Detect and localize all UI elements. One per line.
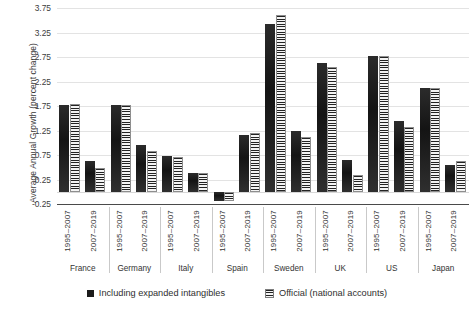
x-axis-period-label: 1995–2007 bbox=[63, 210, 72, 252]
bar bbox=[188, 173, 198, 192]
x-axis-period-label: 2007–2019 bbox=[243, 210, 252, 252]
y-axis-tick-label: 3.75 bbox=[35, 3, 51, 13]
bar bbox=[95, 168, 105, 192]
bar bbox=[214, 192, 224, 201]
y-axis-tick-label: 0.25 bbox=[35, 175, 51, 185]
x-axis-country-label: Spain bbox=[227, 264, 248, 273]
bar bbox=[147, 151, 157, 192]
x-axis-period-label: 1995–2007 bbox=[424, 210, 433, 252]
y-axis-tick-label: 3.25 bbox=[35, 28, 51, 38]
bar bbox=[342, 160, 352, 192]
gridline: 3.25 bbox=[57, 33, 469, 34]
x-axis-line bbox=[57, 204, 469, 205]
x-axis-period-label: 1995–2007 bbox=[166, 210, 175, 252]
bar bbox=[136, 145, 146, 192]
x-axis-country-label: UK bbox=[335, 264, 346, 273]
legend-swatch-icon bbox=[87, 290, 94, 297]
x-axis-period-label: 1995–2007 bbox=[269, 210, 278, 252]
bar bbox=[420, 88, 430, 192]
bar bbox=[353, 175, 363, 192]
legend-label: Official (national accounts) bbox=[279, 288, 387, 298]
bar bbox=[198, 173, 208, 192]
x-axis-period-label: 1995–2007 bbox=[321, 210, 330, 252]
bar bbox=[265, 24, 275, 192]
zero-baseline bbox=[57, 192, 469, 193]
y-axis-tick-label: 2.75 bbox=[35, 52, 51, 62]
bar bbox=[59, 105, 69, 192]
bar bbox=[70, 104, 80, 192]
legend-label: Including expanded intangibles bbox=[99, 288, 225, 298]
bar bbox=[85, 161, 95, 192]
y-axis-tick-label: 1.25 bbox=[35, 126, 51, 136]
bar bbox=[379, 56, 389, 192]
bar bbox=[224, 192, 234, 201]
y-axis-tick-label: -0.25 bbox=[32, 199, 51, 209]
bar bbox=[327, 67, 337, 192]
y-axis-tick-label: 0.75 bbox=[35, 150, 51, 160]
x-axis-period-label: 2007–2019 bbox=[346, 210, 355, 252]
bar bbox=[276, 15, 286, 191]
x-axis-country-label: Italy bbox=[178, 264, 193, 273]
x-axis-period-label: 2007–2019 bbox=[140, 210, 149, 252]
country-separator bbox=[109, 207, 110, 273]
x-axis-period-label: 1995–2007 bbox=[115, 210, 124, 252]
bar bbox=[121, 105, 131, 192]
bar bbox=[430, 88, 440, 192]
country-separator bbox=[160, 207, 161, 273]
country-separator bbox=[315, 207, 316, 273]
bar bbox=[250, 133, 260, 192]
bar bbox=[162, 156, 172, 191]
bar bbox=[445, 165, 455, 192]
x-axis-period-label: 1995–2007 bbox=[372, 210, 381, 252]
gridline: 2.75 bbox=[57, 57, 469, 58]
x-axis-country-label: Japan bbox=[432, 264, 454, 273]
legend-item[interactable]: Including expanded intangibles bbox=[87, 288, 225, 298]
plot-area: 3.753.252.752.251.751.250.750.25-0.25 bbox=[57, 8, 469, 204]
x-axis-country-label: Sweden bbox=[274, 264, 304, 273]
bar bbox=[317, 63, 327, 191]
gridline: 3.75 bbox=[57, 8, 469, 9]
x-axis-period-label: 2007–2019 bbox=[398, 210, 407, 252]
bar bbox=[301, 137, 311, 192]
country-separator bbox=[418, 207, 419, 273]
bar bbox=[404, 127, 414, 192]
legend-swatch-icon bbox=[265, 289, 274, 298]
x-axis-period-label: 1995–2007 bbox=[218, 210, 227, 252]
bar bbox=[291, 131, 301, 192]
x-axis-country-label: Germany bbox=[117, 264, 151, 273]
x-axis-period-label: 2007–2019 bbox=[295, 210, 304, 252]
y-axis-tick-label: 1.75 bbox=[35, 101, 51, 111]
chart-legend: Including expanded intangiblesOfficial (… bbox=[0, 288, 474, 298]
bar bbox=[111, 105, 121, 192]
bar bbox=[368, 56, 378, 192]
bar bbox=[456, 161, 466, 191]
bar-chart-figure: Average Annual Growth (percent change) 3… bbox=[0, 0, 474, 314]
country-separator bbox=[366, 207, 367, 273]
y-axis-tick-label: 2.25 bbox=[35, 77, 51, 87]
bar bbox=[239, 135, 249, 191]
bar bbox=[173, 157, 183, 191]
x-axis-country-label: US bbox=[386, 264, 397, 273]
x-axis-period-label: 2007–2019 bbox=[89, 210, 98, 252]
country-separator bbox=[263, 207, 264, 273]
bar bbox=[394, 121, 404, 192]
x-axis-country-label: France bbox=[70, 264, 95, 273]
x-axis-period-label: 2007–2019 bbox=[449, 210, 458, 252]
x-axis-period-label: 2007–2019 bbox=[192, 210, 201, 252]
gridline: 2.25 bbox=[57, 82, 469, 83]
country-separator bbox=[212, 207, 213, 273]
legend-item[interactable]: Official (national accounts) bbox=[265, 288, 387, 298]
